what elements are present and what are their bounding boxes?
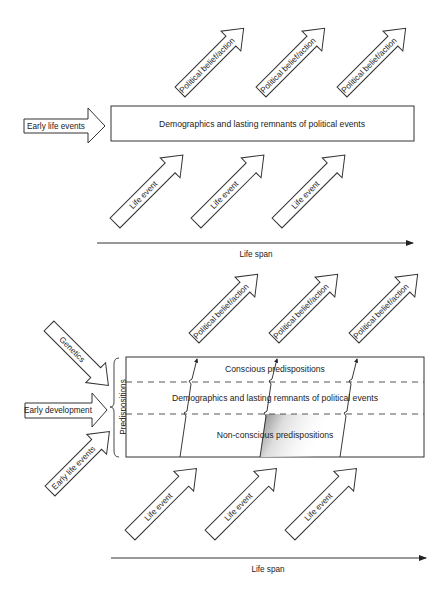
life-span-label-bottom: Life span bbox=[251, 565, 285, 574]
political-belief-arrow-2: Political belief/action bbox=[251, 18, 334, 101]
early-life-events-label: Early life events bbox=[50, 444, 97, 491]
life-span-label: Life span bbox=[239, 250, 273, 259]
early-development-label: Early development bbox=[24, 406, 93, 415]
political-belief-label: Political belief/action bbox=[192, 282, 251, 341]
political-belief-arrow-bottom-3: Political belief/action bbox=[344, 264, 427, 347]
early-life-events-label: Early life events bbox=[27, 122, 85, 131]
life-event-arrow-1: Life event bbox=[105, 145, 193, 233]
political-belief-label: Political belief/action bbox=[352, 282, 411, 341]
political-belief-arrow-3: Political belief/action bbox=[332, 18, 415, 101]
life-event-arrow-2: Life event bbox=[186, 145, 274, 233]
early-life-events-arrow-bottom: Early life events bbox=[40, 422, 119, 501]
early-development-arrow: Early development bbox=[24, 393, 107, 427]
top-panel: Early life events Demographics and lasti… bbox=[24, 18, 416, 259]
predispositions-box: Conscious predispositions Demographics a… bbox=[126, 357, 424, 457]
predispositions-brace bbox=[110, 358, 119, 457]
political-belief-arrow-1: Political belief/action bbox=[170, 18, 253, 101]
political-belief-arrow-bottom-2: Political belief/action bbox=[264, 264, 347, 347]
life-event-arrow-3: Life event bbox=[267, 145, 355, 233]
political-belief-label: Political belief/action bbox=[178, 36, 237, 95]
life-event-arrow-bottom-2: Life event bbox=[200, 459, 286, 545]
genetics-arrow: Genetics bbox=[39, 316, 118, 395]
political-belief-label: Political belief/action bbox=[272, 282, 331, 341]
diagram: Early life events Demographics and lasti… bbox=[0, 0, 447, 592]
political-belief-label: Political belief/action bbox=[340, 36, 399, 95]
demographics-box: Demographics and lasting remnants of pol… bbox=[111, 106, 414, 141]
life-event-arrow-bottom-3: Life event bbox=[280, 459, 366, 545]
life-event-arrow-bottom-1: Life event bbox=[120, 459, 206, 545]
political-belief-arrow-bottom-1: Political belief/action bbox=[184, 264, 267, 347]
political-belief-label: Political belief/action bbox=[259, 36, 318, 95]
layer-non-conscious: Non-conscious predispositions bbox=[217, 430, 334, 440]
bottom-panel: Genetics Early development Early life ev… bbox=[24, 264, 427, 574]
layer-demographics: Demographics and lasting remnants of pol… bbox=[172, 393, 378, 403]
early-life-events-arrow: Early life events bbox=[24, 108, 105, 143]
demographics-box-label: Demographics and lasting remnants of pol… bbox=[159, 119, 365, 129]
